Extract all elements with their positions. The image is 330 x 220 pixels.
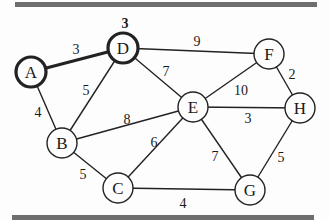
edge-weight-label: 6 [151,135,158,150]
node-label: D [117,39,129,58]
node-g: G [235,175,265,205]
node-c: C [103,173,133,203]
bottom-bar [12,215,314,220]
edge-c-g [118,188,250,190]
edge-weight-label: 8 [124,112,131,127]
node-label: G [244,181,256,200]
node-e: E [178,92,208,122]
edge-weight-label: 5 [83,83,90,98]
edge-weight-label: 7 [212,149,219,164]
edge-weight-label: 3 [245,111,252,126]
edge-weight-label: 4 [35,105,42,120]
node-label: E [188,98,198,117]
edge-weight-label: 5 [80,167,87,182]
node-b: B [47,128,77,158]
node-label: B [56,134,67,153]
graph-diagram: 345971023856754 AD3FHEBCG [0,0,330,220]
edge-weight-label: 2 [289,67,296,82]
edge-weight-label: 10 [234,83,248,98]
edge-weight-label: 7 [163,64,170,79]
node-f: F [254,39,284,69]
edge-weight-label: 5 [278,150,285,165]
top-bar [15,2,317,7]
node-a: A [16,57,46,87]
node-label: H [294,99,306,118]
nodes-layer: AD3FHEBCG [16,16,315,205]
edge-weight-label: 3 [73,42,80,57]
node-distance-label: 3 [122,16,129,31]
edge-weight-label: 4 [180,196,187,211]
node-label: A [25,63,38,82]
node-d: D3 [108,16,138,63]
node-label: F [264,45,273,64]
node-h: H [285,93,315,123]
node-label: C [112,179,123,198]
edge-weight-label: 9 [194,34,201,49]
edge-e-h [193,107,300,108]
